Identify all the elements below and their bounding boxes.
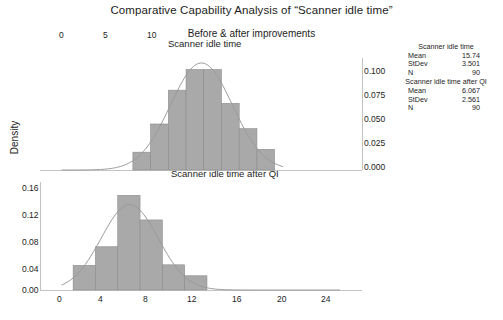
histogram-bar <box>73 265 95 290</box>
histogram-bar <box>204 70 222 170</box>
histogram-bar <box>151 124 169 170</box>
capability-analysis-figure: Comparative Capability Analysis of “Scan… <box>0 0 503 320</box>
histogram-bar <box>118 195 140 290</box>
histogram-bar <box>140 220 162 290</box>
histogram-bar <box>133 152 151 170</box>
histogram-bar <box>186 70 204 170</box>
histogram-bar <box>168 90 186 170</box>
histogram-bar <box>257 149 275 170</box>
histogram-panel-before <box>40 58 363 171</box>
histogram-panel-after <box>40 182 362 291</box>
histogram-bar <box>185 276 207 290</box>
plot-canvas <box>0 0 503 320</box>
histogram-bar <box>95 247 117 290</box>
histogram-bar <box>162 265 184 290</box>
